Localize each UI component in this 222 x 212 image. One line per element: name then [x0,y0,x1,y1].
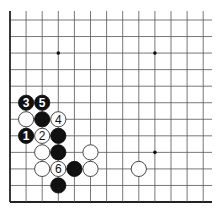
white-stone-icon [83,145,98,160]
white-stone-icon [19,112,34,127]
white-stone-4: 4 [51,112,66,127]
white-stone [35,145,50,160]
black-stone-5: 5 [35,95,50,110]
stones-layer: 354126 [19,95,147,193]
white-stone [83,145,98,160]
move-number-label: 6 [55,162,62,176]
white-stone [83,161,98,176]
star-point [57,51,61,55]
star-point [153,151,157,155]
white-stone-icon [35,145,50,160]
black-stone [67,161,82,176]
white-stone-6: 6 [51,161,66,176]
white-stone [35,161,50,176]
white-stone [131,161,146,176]
move-number-label: 1 [23,129,30,143]
black-stone-1: 1 [19,128,34,143]
white-stone [19,112,34,127]
black-stone-icon [35,112,50,127]
move-number-label: 3 [23,96,30,110]
black-stone-icon [51,145,66,160]
move-number-label: 5 [39,96,46,110]
black-stone [51,178,66,193]
star-point [153,51,157,55]
move-number-label: 2 [39,129,46,143]
white-stone-2: 2 [35,128,50,143]
black-stone [51,128,66,143]
white-stone-icon [35,161,50,176]
black-stone-icon [51,128,66,143]
white-stone-icon [131,161,146,176]
move-number-label: 4 [55,113,62,127]
black-stone-icon [67,161,82,176]
black-stone [35,112,50,127]
black-stone-3: 3 [19,95,34,110]
black-stone [51,145,66,160]
white-stone-icon [83,161,98,176]
black-stone-icon [51,178,66,193]
go-board-diagram: 354126 [0,0,222,212]
